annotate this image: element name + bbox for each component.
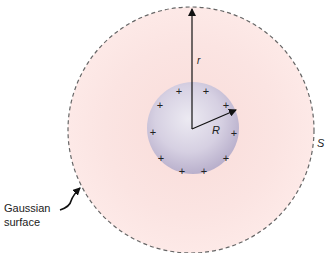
charge: +: [201, 165, 207, 177]
charge: +: [176, 85, 182, 97]
charge: +: [157, 99, 163, 111]
diagram-canvas: + + + + + + + + + + r R S Gaussian surfa…: [0, 0, 329, 253]
charge: +: [223, 152, 229, 164]
charge: +: [203, 85, 209, 97]
gaussian-sphere-diagram: + + + + + + + + + + r R S Gaussian surfa…: [0, 0, 329, 253]
charge: +: [231, 127, 237, 139]
charge: +: [223, 99, 229, 111]
gaussian-label-line2: surface: [4, 216, 40, 228]
charge: +: [150, 126, 156, 138]
label-R: R: [212, 124, 220, 136]
charge: +: [179, 165, 185, 177]
gaussian-pointer-arrow: [60, 188, 80, 210]
charge: +: [158, 152, 164, 164]
gaussian-label-line1: Gaussian: [4, 202, 50, 214]
label-S: S: [317, 137, 325, 149]
